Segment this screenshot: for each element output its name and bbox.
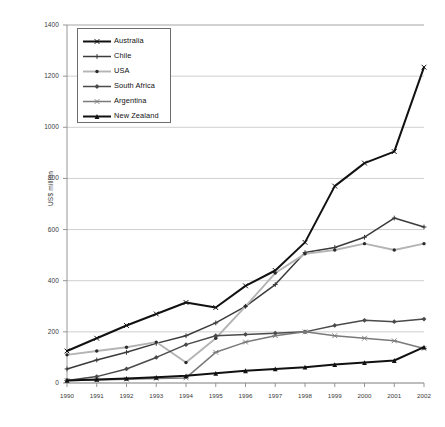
legend-label: New Zealand bbox=[114, 111, 159, 120]
y-tick-label: 400 bbox=[25, 277, 59, 284]
y-tick-label: 1000 bbox=[25, 123, 59, 130]
legend-item-new-zealand: New Zealand bbox=[78, 108, 170, 123]
x-tick-label: 1995 bbox=[201, 392, 231, 399]
legend-item-south-africa: South Africa bbox=[78, 78, 170, 93]
x-tick-label: 1996 bbox=[231, 392, 261, 399]
legend-item-chile: Chile bbox=[78, 48, 170, 63]
legend-item-australia: Australia bbox=[78, 33, 170, 48]
x-tick-label: 1990 bbox=[52, 392, 82, 399]
series-new-zealand bbox=[65, 345, 427, 383]
x-tick-label: 1993 bbox=[141, 392, 171, 399]
x-tick-label: 2000 bbox=[350, 392, 380, 399]
legend-marker-icon bbox=[82, 64, 112, 77]
legend-label: Australia bbox=[114, 36, 144, 45]
legend-marker-icon bbox=[82, 79, 112, 92]
legend-marker-icon bbox=[82, 49, 112, 62]
x-tick-label: 1999 bbox=[320, 392, 350, 399]
x-tick-label: 1998 bbox=[290, 392, 320, 399]
y-tick-label: 1200 bbox=[25, 72, 59, 79]
legend-label: USA bbox=[114, 66, 130, 75]
legend-marker-icon bbox=[82, 94, 112, 107]
legend-item-usa: USA bbox=[78, 63, 170, 78]
x-tick-label: 2002 bbox=[409, 392, 439, 399]
y-tick-label: 200 bbox=[25, 328, 59, 335]
legend-label: Argentina bbox=[114, 96, 147, 105]
x-tick-label: 1991 bbox=[82, 392, 112, 399]
line-chart: US$ million 0200400600800100012001400 19… bbox=[0, 0, 445, 427]
x-tick-label: 1997 bbox=[260, 392, 290, 399]
y-axis-label: US$ million bbox=[47, 144, 54, 234]
series-usa bbox=[65, 242, 425, 364]
x-tick-label: 1992 bbox=[112, 392, 142, 399]
y-tick-label: 800 bbox=[25, 174, 59, 181]
y-tick-label: 0 bbox=[25, 379, 59, 386]
y-tick-label: 600 bbox=[25, 226, 59, 233]
legend-item-argentina: Argentina bbox=[78, 93, 170, 108]
x-tick-label: 1994 bbox=[171, 392, 201, 399]
legend-label: Chile bbox=[114, 51, 131, 60]
y-tick-label: 1400 bbox=[25, 21, 59, 28]
legend: AustraliaChileUSASouth AfricaArgentinaNe… bbox=[77, 28, 171, 123]
x-tick-label: 2001 bbox=[379, 392, 409, 399]
series-argentina bbox=[64, 329, 427, 382]
plot-area bbox=[0, 0, 445, 427]
legend-marker-icon bbox=[82, 34, 112, 47]
legend-marker-icon bbox=[82, 109, 112, 122]
legend-label: South Africa bbox=[114, 81, 155, 90]
